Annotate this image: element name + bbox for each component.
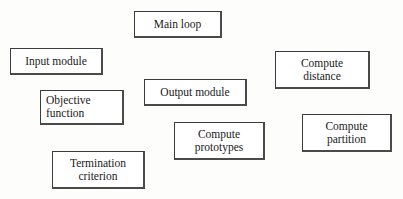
node-label-compute-prototypes: Compute prototypes (191, 128, 248, 154)
node-compute-distance[interactable]: Compute distance (275, 51, 370, 89)
node-label-input-module: Input module (21, 55, 91, 68)
node-label-compute-partition: Compute partition (321, 120, 371, 146)
node-objective-function[interactable]: Objective function (40, 90, 124, 125)
node-label-compute-distance: Compute distance (297, 57, 347, 83)
node-label-objective-function: Objective function (41, 94, 95, 120)
node-compute-prototypes[interactable]: Compute prototypes (174, 122, 265, 160)
node-compute-partition[interactable]: Compute partition (302, 114, 392, 152)
node-label-termination-criterion: Termination criterion (66, 157, 130, 183)
diagram-canvas: Main loopInput moduleCompute distanceOut… (0, 0, 403, 199)
node-label-main-loop: Main loop (150, 18, 206, 31)
node-main-loop[interactable]: Main loop (134, 11, 222, 38)
node-termination-criterion[interactable]: Termination criterion (52, 151, 145, 189)
node-output-module[interactable]: Output module (144, 79, 247, 106)
node-input-module[interactable]: Input module (10, 48, 103, 75)
node-label-output-module: Output module (156, 86, 233, 99)
